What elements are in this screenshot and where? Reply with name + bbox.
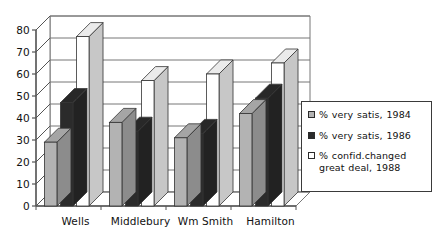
plot-area: 80706050403020100 WellsMiddleburyWm Smit… — [0, 0, 330, 240]
legend-item-label: % very satis, 1986 — [319, 130, 411, 142]
bar-chart: 80706050403020100 WellsMiddleburyWm Smit… — [0, 0, 440, 251]
x-tick-label: Hamilton — [231, 216, 311, 227]
legend-item-0: % very satis, 1984 — [308, 109, 426, 121]
x-axis-tick-labels: WellsMiddleburyWm SmithHamilton — [0, 0, 330, 240]
legend-item-label: % confid.changed great deal, 1988 — [319, 150, 426, 173]
legend-item-label: % very satis, 1984 — [319, 109, 411, 121]
light-gray-swatch — [308, 111, 315, 118]
dark-swatch — [308, 132, 315, 139]
white-swatch — [308, 152, 315, 159]
chart-legend: % very satis, 1984 % very satis, 1986 % … — [301, 101, 432, 192]
legend-item-2: % confid.changed great deal, 1988 — [308, 150, 426, 173]
legend-item-1: % very satis, 1986 — [308, 130, 426, 142]
